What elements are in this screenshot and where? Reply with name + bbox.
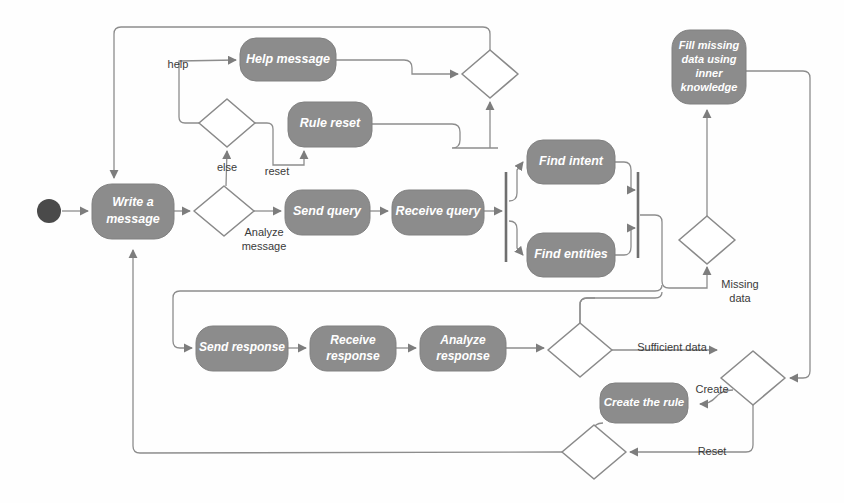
activity-create-the-rule[interactable]: Create the rule [600,383,688,423]
edge-rulereset-to-topmerge [372,123,465,146]
merge-top-right[interactable] [462,50,518,98]
edge-rule-reset-around [372,124,459,154]
activity-rule-reset[interactable]: Rule reset [288,102,372,147]
guard-label-reset-bottom: Reset [698,445,727,457]
edge-rulereset-to-merge-2 [372,124,445,146]
guard-label-help: help [168,58,189,70]
activity-send-query-label: Send query [293,204,362,218]
activity-fill-missing-data-line1: Fill missing [679,39,740,51]
edge-find-entities-to-join [615,228,635,255]
guard-label-missing-data-line1: Missing [721,278,758,290]
activity-analyze-response[interactable]: Analyze response [420,326,506,371]
activity-fill-missing-data-line3: inner [696,67,724,79]
guard-label-missing-data-line2: data [729,292,751,304]
activity-rule-reset-label: Rule reset [300,116,361,130]
activity-send-query[interactable]: Send query [285,190,370,235]
activity-send-response-label: Send response [199,340,285,354]
edge-join-right-down [640,215,662,281]
edge-rulereset-to-merge [372,124,450,146]
decision-create-reset[interactable] [721,351,785,405]
activity-write-a-message-line1: Write a [112,195,153,209]
decision-help-reset-branch[interactable] [199,99,255,147]
activity-find-entities-label: Find entities [534,247,608,261]
activity-analyze-response-line2: response [436,349,490,363]
guard-label-reset: reset [265,165,289,177]
edge-rule-reset-to-merge-final [372,123,460,139]
activity-fill-missing-data-line2: data using [681,53,736,65]
decision-missing-data[interactable] [679,216,735,264]
activity-fill-missing-data[interactable]: Fill missing data using inner knowledge [672,30,746,104]
edge-rulereset-merge-visible [372,123,459,138]
activity-write-a-message[interactable]: Write a message [92,184,174,239]
activity-fill-missing-data-line4: knowledge [681,81,738,93]
guard-label-create: Create [695,383,728,395]
merge-bottom[interactable] [562,425,626,479]
edge-rule-reset-merge-up [372,102,498,148]
activity-receive-response-line1: Receive [330,333,376,347]
activity-help-message[interactable]: Help message [240,38,336,81]
initial-node [37,199,61,223]
activity-find-intent-label: Find intent [539,154,604,168]
edge-fork-to-find-intent [509,162,523,201]
diagram-svg: Write a message Help message Rule reset … [0,0,844,503]
edge-rule-to-merge-bottom [372,123,462,148]
activity-find-entities[interactable]: Find entities [527,233,615,277]
edge-fork-to-find-entities [509,221,523,255]
activity-receive-response[interactable]: Receive response [310,326,396,371]
activity-find-intent[interactable]: Find intent [527,140,615,184]
activity-receive-query[interactable]: Receive query [392,190,484,235]
edge-rulereset-merge-real [372,124,452,148]
edge-help-to-merge [336,60,458,74]
activity-help-message-label: Help message [246,52,330,66]
activity-write-a-message-line2: message [106,212,160,226]
activity-receive-query-label: Receive query [396,204,482,218]
edge-missingloop-to-sufficient [580,292,662,323]
guard-label-else: else [217,161,237,173]
edge-fill-to-create-reset [746,71,810,378]
decision-sufficient-data[interactable] [548,323,612,377]
activity-create-the-rule-label: Create the rule [604,396,685,408]
edge-rulereset-down-merge [372,123,460,148]
edge-join-to-missing-decision [662,267,707,288]
guard-label-analyze-message-line2: message [242,240,287,252]
activity-send-response[interactable]: Send response [196,326,288,371]
guard-label-analyze-message-line1: Analyze [244,226,283,238]
edge-rule-reset-merge [372,123,460,146]
activity-receive-response-line2: response [326,349,380,363]
edge-find-intent-to-join [615,162,635,190]
edge-top-into-sufficient [580,298,595,323]
activity-analyze-response-line1: Analyze [439,333,486,347]
activity-diagram-canvas: Write a message Help message Rule reset … [0,0,844,503]
